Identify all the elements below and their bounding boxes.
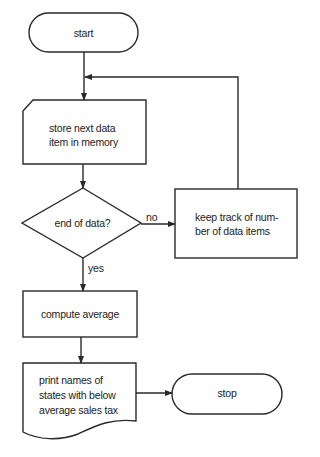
compute-label: compute average (23, 308, 137, 321)
print-label-line1: print names of (39, 374, 103, 387)
keep-track-label-line2: ber of data items (195, 225, 270, 238)
start-label: start (29, 27, 138, 40)
print-label-line2: states with below (39, 389, 116, 402)
no-label: no (146, 211, 157, 224)
stop-label: stop (172, 387, 282, 400)
yes-label: yes (88, 262, 104, 275)
print-label-line3: average sales tax (39, 404, 118, 417)
keep-track-label-line1: keep track of num- (195, 211, 278, 224)
store-label-line2: item in memory (49, 136, 118, 149)
decision-label: end of data? (22, 217, 143, 230)
store-label-line1: store next data (49, 122, 115, 135)
